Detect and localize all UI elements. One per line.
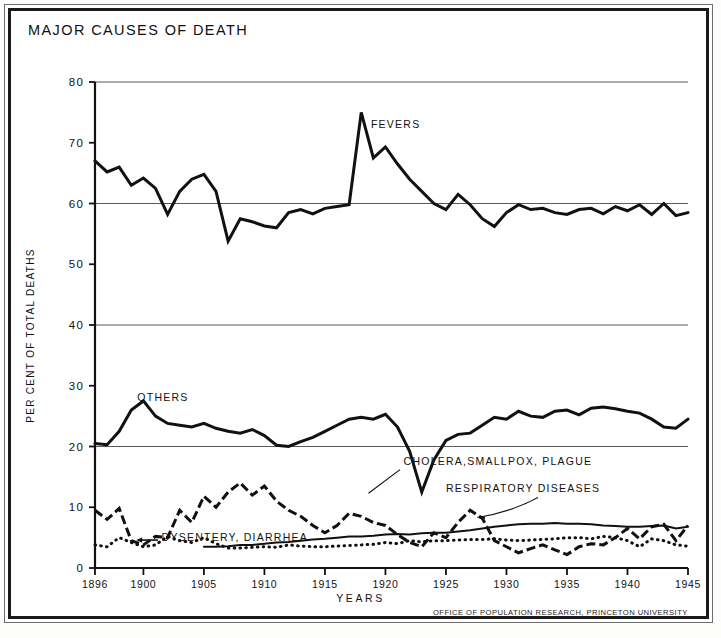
annotation-fevers: FEVERS <box>371 118 421 130</box>
y-axis-ticks: 01020304050607080 <box>69 76 95 574</box>
series-line-fevers <box>95 112 688 241</box>
x-tick-label-1940: 1940 <box>615 578 641 590</box>
y-tick-label-20: 20 <box>69 441 84 453</box>
annotation-others: OTHERS <box>137 391 188 403</box>
figure-canvas: MAJOR CAUSES OF DEATH PER CENT OF TOTAL … <box>0 0 721 638</box>
x-tick-label-1945: 1945 <box>675 578 701 590</box>
leader-respiratory <box>477 498 538 518</box>
x-tick-label-1930: 1930 <box>494 578 520 590</box>
x-axis-ticks: 1896190019051910191519201925193019351940… <box>82 568 701 590</box>
y-tick-label-50: 50 <box>69 258 84 270</box>
y-tick-label-80: 80 <box>69 76 84 88</box>
annotation-dysentery-diarrhea: DYSENTERY, DIARRHEA <box>162 531 308 543</box>
x-tick-label-1910: 1910 <box>252 578 278 590</box>
x-tick-label-1935: 1935 <box>554 578 580 590</box>
leader-cholera <box>369 470 400 494</box>
x-tick-label-1900: 1900 <box>131 578 157 590</box>
y-tick-label-70: 70 <box>69 137 84 149</box>
y-tick-label-10: 10 <box>69 501 84 513</box>
annotation-respiratory-diseases: RESPIRATORY DISEASES <box>446 482 600 494</box>
x-tick-label-1905: 1905 <box>191 578 217 590</box>
series-annotations: FEVERSOTHERSCHOLERA,SMALLPOX, PLAGUERESP… <box>137 118 600 543</box>
x-tick-label-1920: 1920 <box>373 578 399 590</box>
chart-plot-area: 01020304050607080 1896190019051910191519… <box>0 0 721 638</box>
x-tick-label-1915: 1915 <box>312 578 338 590</box>
annotation-cholera-smallpox-plague: CHOLERA,SMALLPOX, PLAGUE <box>404 455 593 467</box>
y-tick-label-60: 60 <box>69 198 84 210</box>
x-tick-label-1896: 1896 <box>82 578 108 590</box>
y-tick-label-0: 0 <box>76 562 84 574</box>
y-tick-label-40: 40 <box>69 319 84 331</box>
y-tick-label-30: 30 <box>69 380 84 392</box>
x-tick-label-1925: 1925 <box>433 578 459 590</box>
